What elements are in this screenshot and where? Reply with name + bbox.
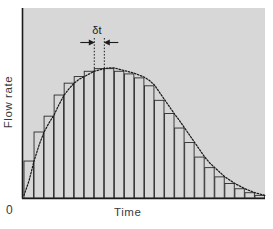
histogram-bar bbox=[255, 195, 264, 198]
histogram-bar bbox=[175, 128, 184, 198]
histogram-bar bbox=[185, 143, 194, 198]
y-axis-label: Flow rate bbox=[2, 72, 14, 132]
histogram-bar bbox=[165, 114, 174, 198]
histogram-bar bbox=[124, 74, 133, 198]
delta-t-label: δt bbox=[92, 24, 101, 36]
histogram-bar bbox=[145, 86, 154, 198]
histogram-bar bbox=[205, 168, 214, 198]
histogram-bar bbox=[134, 78, 143, 198]
histogram-bar bbox=[114, 71, 123, 198]
histogram-bar bbox=[84, 71, 93, 198]
chart-canvas bbox=[0, 0, 273, 229]
histogram-bar bbox=[34, 132, 43, 198]
histogram-bar bbox=[104, 69, 113, 198]
histogram-bar bbox=[245, 193, 254, 198]
histogram-bar bbox=[74, 77, 83, 198]
flow-rate-chart-figure: Flow rate Time 0 δt bbox=[0, 0, 273, 229]
histogram-bar bbox=[225, 183, 234, 198]
x-axis-label: Time bbox=[114, 206, 142, 218]
histogram-bar bbox=[155, 100, 164, 198]
histogram-bar bbox=[64, 83, 73, 198]
histogram-bar bbox=[235, 189, 244, 198]
histogram-bar bbox=[215, 177, 224, 198]
histogram-bar bbox=[94, 69, 103, 198]
histogram-bar bbox=[195, 157, 204, 198]
origin-tick-label: 0 bbox=[6, 203, 13, 217]
